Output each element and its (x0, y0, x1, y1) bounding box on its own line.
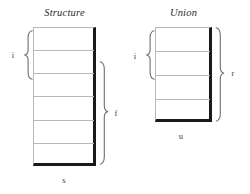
structure-row-divider (34, 96, 94, 97)
diagram-canvas: Structure i f s Union i r (0, 0, 250, 194)
union-row-divider (156, 75, 210, 76)
union-right-brace (215, 27, 229, 123)
union-row-divider (156, 99, 210, 100)
structure-left-brace (20, 30, 33, 80)
structure-label-f: f (111, 108, 121, 118)
union-label-u: u (173, 131, 189, 141)
union-label-r: r (228, 68, 238, 78)
panel-title-union: Union (155, 7, 212, 18)
union-left-brace (142, 30, 155, 80)
union-label-i: i (130, 51, 140, 61)
structure-row-divider (34, 120, 94, 121)
structure-label-s: s (56, 175, 72, 185)
union-row-divider (156, 51, 210, 52)
structure-row-divider (34, 50, 94, 51)
panel-title-structure: Structure (33, 7, 96, 18)
structure-row-divider (34, 73, 94, 74)
structure-row-divider (34, 143, 94, 144)
structure-label-i: i (8, 50, 18, 60)
